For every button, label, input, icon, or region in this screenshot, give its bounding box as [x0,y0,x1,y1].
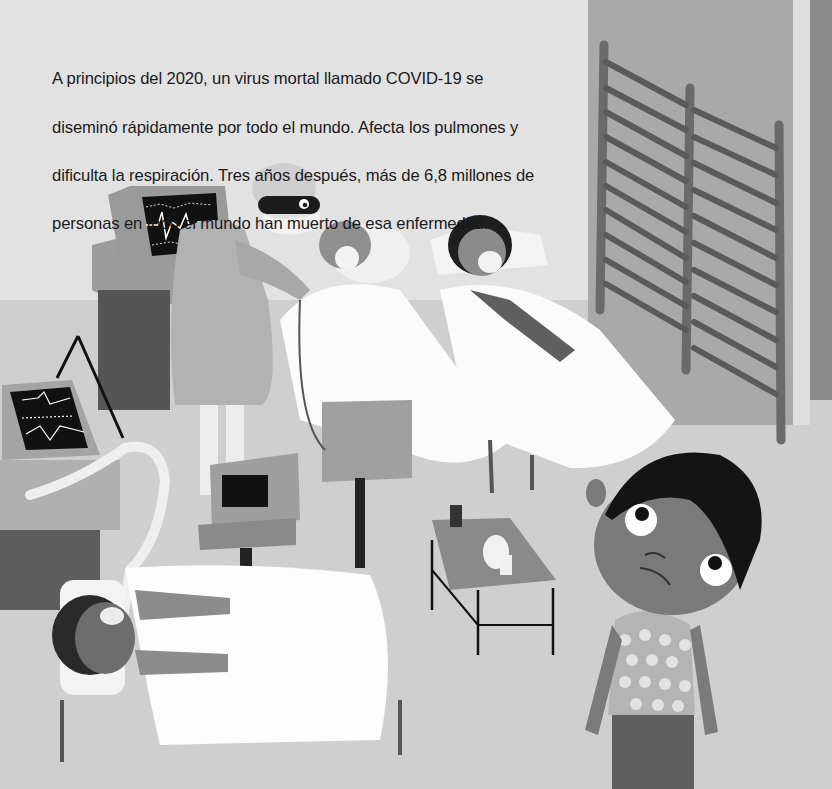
book-page: A principios del 2020, un virus mortal l… [0,0,832,789]
story-text-line-2: diseminó rápidamente por todo el mundo. … [52,116,572,140]
story-text: A principios del 2020, un virus mortal l… [52,43,572,261]
story-text-line-1: A principios del 2020, un virus mortal l… [52,67,572,91]
story-text-line-4: personas en todo el mundo han muerto de … [52,212,572,236]
story-text-line-3: dificulta la respiración. Tres años desp… [52,164,572,188]
patient-bed-ventilated [52,565,400,762]
side-table [432,505,556,655]
worried-boy [585,453,762,789]
